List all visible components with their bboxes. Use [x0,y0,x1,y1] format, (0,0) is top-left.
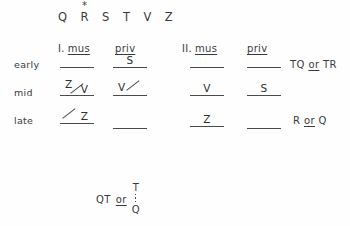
cell-late-g1-mus[interactable]: Z [60,107,94,124]
annotation-late: R or Q [293,115,327,126]
symbol-r-letter: R [81,10,90,24]
cell-early-g2-priv[interactable] [247,51,281,68]
annotation-late-left: R [293,115,300,126]
annotation-early-left: TQ [290,59,305,70]
row-label-early: early [14,59,39,70]
formula-numerator: T [133,182,140,193]
cell-late-g1-priv[interactable] [113,112,147,129]
cell-value-secondary: V [81,83,88,95]
row-label-mid: mid [14,87,33,98]
cell-mid-g1-priv[interactable]: V [113,79,147,96]
slash-stroke [126,80,139,91]
bottom-formula: QT or T Q [96,183,140,216]
symbol-q: Q [58,10,68,24]
symbol-header-row: Q * R S T V Z [58,10,173,24]
cell-mid-g1-mus[interactable]: Z V [60,79,94,96]
dotted-divider-icon [135,194,136,202]
formula-connector: or [116,194,127,205]
cell-early-g2-mus[interactable] [190,51,224,68]
annotation-late-right: Q [319,115,327,126]
formula-fraction: T Q [132,182,140,215]
annotation-early-connector: or [308,59,319,70]
asterisk-icon: * [82,1,88,11]
symbol-s: S [102,10,110,24]
cell-value: V [203,82,210,94]
cell-value: S [261,82,268,94]
cell-late-g2-priv[interactable] [247,112,281,129]
cell-early-g1-mus[interactable] [60,51,94,68]
figure-canvas: Q * R S T V Z I.mus priv II.mus priv ear… [0,0,350,226]
cell-value: Z [65,78,73,90]
formula-lead: QT [96,194,111,205]
cell-mid-g2-mus[interactable]: V [190,79,224,96]
row-label-late: late [14,115,33,126]
cell-value: S [127,54,134,66]
cell-value: V [118,81,125,93]
formula-denominator: Q [132,204,140,215]
cell-value: Z [203,113,211,125]
cell-early-g1-priv[interactable]: S [113,51,147,68]
symbol-v: V [143,10,151,24]
symbol-z: Z [165,10,173,24]
annotation-late-connector: or [304,115,315,126]
symbol-r: * R [81,10,90,24]
cell-late-g2-mus[interactable]: Z [190,110,224,127]
annotation-early: TQ or TR [290,59,337,70]
symbol-t: T [123,10,131,24]
slash-stroke [62,108,75,119]
cell-mid-g2-priv[interactable]: S [247,79,281,96]
cell-value: Z [81,110,89,122]
annotation-early-right: TR [323,59,337,70]
